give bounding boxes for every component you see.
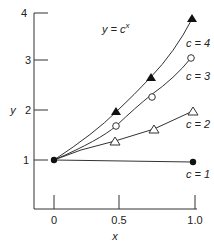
series-c3 — [54, 55, 194, 160]
open-circle-marker — [149, 94, 156, 101]
x-axis-label: x — [111, 230, 118, 242]
filled-triangle-marker — [187, 14, 197, 22]
open-circle-marker — [188, 55, 195, 62]
origin-point-marker — [51, 157, 57, 163]
open-circle-marker — [113, 123, 120, 130]
y-axis-label: y — [9, 104, 17, 116]
series-label-c3: c = 3 — [186, 70, 211, 82]
title-base: y = c — [101, 23, 126, 35]
x-tick-label: 0 — [51, 214, 57, 226]
chart-title: y = cx — [101, 21, 131, 35]
open-triangle-marker — [149, 125, 159, 133]
y-tick-label: 3 — [25, 54, 31, 66]
open-triangle-marker — [188, 107, 198, 115]
series-label-c4: c = 4 — [186, 37, 210, 49]
exponential-chart: 4 3 2 1 0 0.5 1.0 x y y = cx — [0, 0, 214, 245]
series-c2 — [54, 107, 198, 160]
x-tick-label: 0.5 — [111, 214, 126, 226]
filled-triangle-marker — [146, 73, 156, 81]
series-c1 — [54, 159, 196, 165]
filled-circle-marker — [190, 159, 196, 165]
x-tick-label: 1.0 — [187, 214, 202, 226]
y-tick-label: 4 — [21, 7, 27, 19]
x-ticks: 0 0.5 1.0 — [51, 195, 203, 226]
series-label-c2: c = 2 — [186, 118, 210, 130]
y-tick-label: 2 — [25, 104, 31, 116]
y-tick-label: 1 — [23, 154, 29, 166]
series-label-c1: c = 1 — [186, 168, 210, 180]
open-triangle-marker — [110, 137, 120, 145]
title-superscript: x — [125, 21, 131, 30]
